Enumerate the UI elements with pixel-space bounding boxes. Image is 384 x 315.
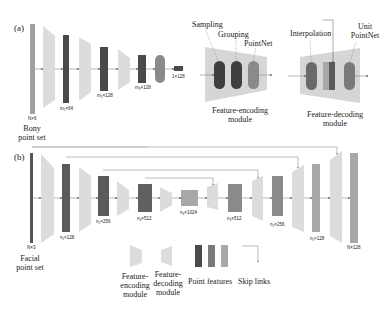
diagram-canvas <box>0 0 384 315</box>
dim-label: n₂×256 <box>270 222 284 227</box>
bony-point-set-label: Bony point set <box>12 124 52 142</box>
dim-label: N×128 <box>347 245 360 250</box>
panel-a-network <box>30 24 183 114</box>
panel-b-network <box>30 147 358 243</box>
dim-label: m₃×128 <box>135 85 151 90</box>
feature-decoding-title: Feature-decoding module <box>300 110 370 128</box>
dim-label: n₁×128 <box>60 235 74 240</box>
legend-encoding: Feature- encoding module <box>118 272 152 299</box>
feature-encoding-title: Feature-encoding module <box>205 106 275 124</box>
facial-point-set-label: Facial point set <box>10 254 50 272</box>
dim-label: n₃×512 <box>137 216 151 221</box>
dim-label: m₁×64 <box>60 106 73 111</box>
pointnet-label: PointNet <box>244 39 272 48</box>
legend-graphics <box>130 245 258 267</box>
dim-label: n₄×1024 <box>180 210 197 215</box>
sampling-label: Sampling <box>192 20 223 29</box>
dim-label: 1×128 <box>172 74 185 79</box>
panel-a-label: (a) <box>14 23 24 33</box>
dim-label: n₂×256 <box>96 219 110 224</box>
dim-label: n₁×128 <box>310 236 324 241</box>
legend-point-features: Point features <box>188 277 232 286</box>
panel-b-label: (b) <box>14 152 25 162</box>
grouping-label: Grouping <box>218 30 249 39</box>
dim-label: m₂×128 <box>97 93 113 98</box>
legend-decoding: Feature- decoding module <box>151 270 185 297</box>
unit-pointnet-label: Unit PointNet <box>345 22 384 40</box>
interpolation-label: Interpolation <box>290 29 331 38</box>
skip-links <box>32 147 337 185</box>
legend-skip-links: Skip links <box>238 277 270 286</box>
dim-label: n₃×512 <box>227 216 241 221</box>
dim-label: N×3 <box>27 245 35 250</box>
dim-label: N×6 <box>28 116 36 121</box>
